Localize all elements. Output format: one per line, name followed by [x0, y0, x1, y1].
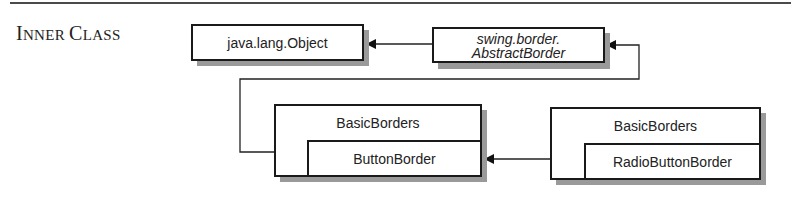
radiobuttonborder-label: RadioButtonBorder — [586, 154, 759, 170]
abstractborder-package-label: swing.border. — [434, 32, 603, 46]
basicborders-label-left: BasicBorders — [276, 115, 480, 131]
object-class-box: java.lang.Object — [191, 24, 364, 61]
abstractborder-class-label: AbstractBorder — [434, 46, 603, 60]
buttonborder-inner-box: ButtonBorder — [307, 140, 482, 177]
abstractborder-class-box: swing.border. AbstractBorder — [432, 27, 605, 63]
object-class-label: java.lang.Object — [193, 35, 362, 51]
basicborders-label-right: BasicBorders — [552, 118, 759, 134]
radiobuttonborder-inner-box: RadioButtonBorder — [584, 143, 761, 180]
buttonborder-label: ButtonBorder — [309, 151, 480, 167]
